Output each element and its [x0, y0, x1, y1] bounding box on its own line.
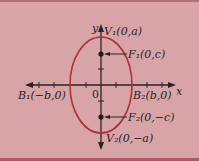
y-axis-down-arrow-icon [98, 142, 104, 150]
co-vertex-b2-label: B₂(b,0) [133, 90, 172, 101]
ellipse-diagram: y x 0 V₁(0,a) F₁(0,c) B₁(−b,0) B₂(b,0) F… [0, 0, 199, 161]
f1-pointer-arrow-icon [104, 52, 110, 56]
focus-f1-point [98, 51, 103, 56]
f2-pointer-arrow-icon [104, 115, 110, 119]
focus-f1-label: F₁(0,c) [128, 49, 165, 60]
x-axis-left-arrow-icon [25, 82, 33, 88]
vertex-v2-label: V₂(0,−a) [106, 133, 153, 144]
x-axis-right-arrow-icon [168, 82, 176, 88]
x-axis-label: x [176, 86, 182, 97]
co-vertex-b1-label: B₁(−b,0) [18, 90, 66, 101]
y-axis-label: y [92, 23, 98, 34]
origin-label: 0 [92, 89, 99, 100]
vertex-v1-label: V₁(0,a) [104, 26, 142, 37]
focus-f2-point [98, 114, 103, 119]
ellipse-graph [0, 2, 199, 161]
focus-f2-label: F₂(0,−c) [128, 112, 175, 123]
